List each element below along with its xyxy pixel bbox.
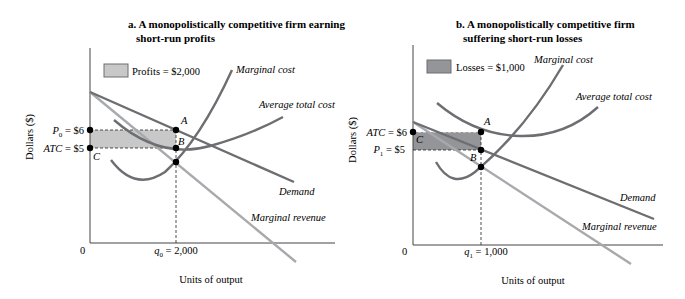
chart-a-label-a: A <box>180 115 188 126</box>
chart-b-label-a: A <box>483 116 491 127</box>
chart-a-point-a <box>173 127 179 133</box>
chart-a-ytick-price: P0 = $6 <box>51 125 84 139</box>
chart-a-ytick-atc: ATC = $5 <box>42 143 84 154</box>
chart-b-label-c: C <box>416 134 424 145</box>
chart-b-marginal-cost-curve <box>436 65 563 179</box>
chart-b-xtick-quantity: q1 = 1,000 <box>464 246 508 260</box>
chart-a-origin-label: 0 <box>80 245 85 256</box>
chart-a-legend-label: Profits = $2,000 <box>132 66 200 77</box>
chart-a-legend-swatch <box>104 64 128 77</box>
figure: a. A monopolistically competitive firm e… <box>0 0 685 299</box>
chart-b-point-a <box>478 129 484 135</box>
chart-b-mr-label: Marginal revenue <box>581 221 657 232</box>
chart-a-marginal-revenue-curve <box>90 92 296 262</box>
chart-a-title-line1: a. A monopolistically competitive firm e… <box>128 18 345 30</box>
chart-b-y-axis-label: Dollars ($) <box>347 117 359 163</box>
chart-a-point-mr-mc <box>173 159 179 165</box>
chart-b-x-axis-label: Units of output <box>501 275 565 286</box>
chart-b-title-line2: suffering short-run losses <box>463 32 583 44</box>
chart-a: a. A monopolistically competitive firm e… <box>24 18 345 285</box>
chart-a-label-c: C <box>93 151 101 162</box>
chart-b-ytick-price: P1 = $5 <box>372 144 405 158</box>
chart-b-legend-label: Losses = $1,000 <box>456 62 525 73</box>
chart-a-mr-label: Marginal revenue <box>250 212 326 223</box>
chart-a-mc-label: Marginal cost <box>235 64 296 75</box>
chart-b-point-b <box>478 147 484 153</box>
chart-b-marginal-revenue-curve <box>413 122 631 264</box>
chart-a-atc-label: Average total cost <box>258 99 336 110</box>
chart-a-demand-label: Demand <box>278 186 315 197</box>
chart-a-point-price-axis <box>87 127 93 133</box>
chart-b-origin-label: 0 <box>402 246 407 257</box>
chart-b-title-line1: b. A monopolistically competitive firm <box>456 18 635 30</box>
chart-b-demand-label: Demand <box>619 192 656 203</box>
chart-a-y-axis-label: Dollars ($) <box>24 114 36 160</box>
chart-b-ytick-atc: ATC = $6 <box>365 127 407 138</box>
chart-b-point-mr-mc <box>478 164 484 170</box>
chart-b-label-b: B <box>470 152 477 163</box>
chart-b-legend-swatch <box>427 60 451 73</box>
chart-a-label-b: B <box>178 136 185 147</box>
chart-b-atc-label: Average total cost <box>575 91 653 102</box>
chart-b-mc-label: Marginal cost <box>533 54 594 65</box>
chart-a-x-axis-label: Units of output <box>179 274 243 285</box>
chart-a-xtick-quantity: q0 = 2,000 <box>154 245 198 259</box>
chart-a-title-line2: short-run profits <box>136 32 216 44</box>
chart-b: b. A monopolistically competitive firm s… <box>347 18 663 286</box>
